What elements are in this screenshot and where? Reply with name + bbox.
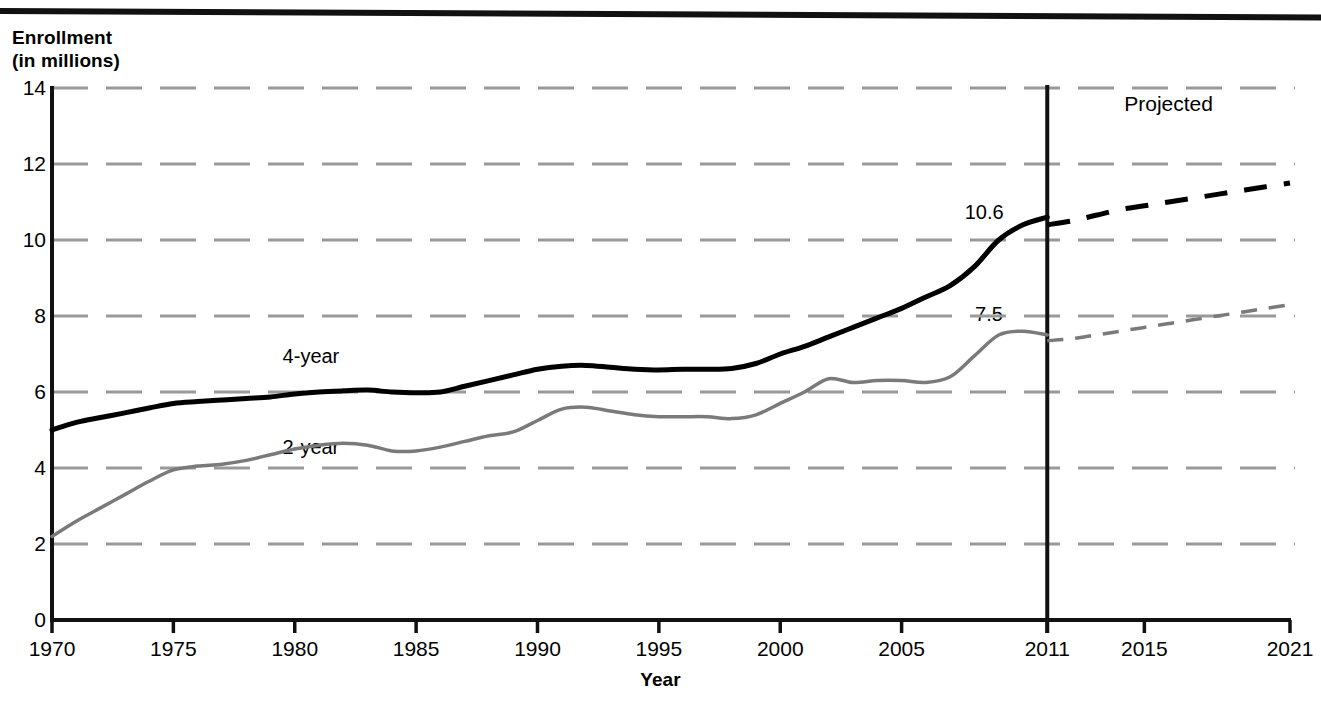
gridlines <box>52 88 1295 544</box>
chart-page: Enrollment(in millions) 02468101214 1970… <box>0 0 1321 702</box>
series-line-projected-2-year <box>1047 305 1290 341</box>
series-line-actual-4-year <box>52 217 1047 430</box>
series-line-actual-2-year <box>52 331 1047 536</box>
axis-lines <box>50 86 1291 633</box>
x-axis-title: Year <box>0 668 1321 691</box>
series-line-projected-4-year <box>1047 183 1290 225</box>
chart-plot-area <box>0 0 1321 702</box>
series-2-year <box>52 305 1290 537</box>
